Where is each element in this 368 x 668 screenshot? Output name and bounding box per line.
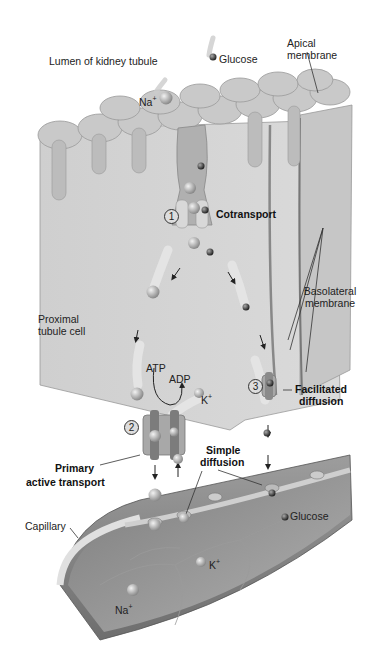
label-simple: Simple — [206, 444, 240, 456]
label-glucose-bottom: Glucose — [290, 510, 329, 522]
label-glucose-top: Glucose — [219, 53, 258, 65]
step-3-marker: 3 — [248, 379, 263, 394]
label-na-capillary: Na+ — [115, 601, 133, 616]
label-atp: ATP — [146, 362, 166, 374]
label-k-capillary: K+ — [209, 556, 220, 571]
label-active-transport: active transport — [26, 476, 105, 488]
basolateral-side-face — [300, 105, 352, 395]
label-k-cell: K+ — [201, 391, 212, 406]
label-diffusion: diffusion — [299, 395, 343, 407]
label-basolateral-membrane: Basolateral membrane — [296, 285, 364, 309]
label-facilitated: Facilitated — [295, 383, 347, 395]
label-diffusion-simple: diffusion — [200, 456, 244, 468]
label-primary: Primary — [55, 462, 94, 474]
label-na-top: Na+ — [139, 93, 157, 108]
label-proximal-tubule-cell: Proximal tubule cell — [38, 313, 98, 337]
label-adp: ADP — [169, 373, 191, 385]
label-apical-membrane: Apical membrane — [287, 37, 347, 61]
step-2-marker: 2 — [124, 420, 139, 435]
step-1-marker: 1 — [164, 209, 179, 224]
label-cotransport: Cotransport — [216, 208, 276, 220]
label-lumen: Lumen of kidney tubule — [49, 55, 158, 67]
label-capillary: Capillary — [25, 520, 66, 532]
